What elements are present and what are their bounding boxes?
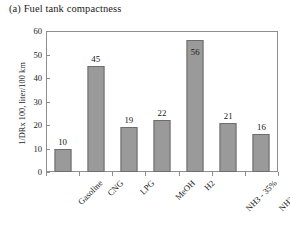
x-tick-mark (212, 172, 213, 176)
bar-group: 19 (112, 31, 145, 172)
x-axis-label-text: Gasoline (75, 178, 104, 207)
x-axis-label-text: NH3 - 35% (244, 178, 279, 213)
bar[interactable] (253, 134, 270, 172)
y-tick-label: 30 (26, 98, 42, 106)
x-axis-label-text: H2 (202, 178, 217, 193)
bar-group: 45 (79, 31, 112, 172)
x-axis-label-text: CNG (105, 178, 125, 198)
x-axis-label: CNG (105, 178, 125, 198)
x-axis-label-text: MeOH (173, 178, 197, 202)
chart-title: (a) Fuel tank compactness (9, 3, 121, 14)
bar-value-label: 22 (158, 109, 167, 118)
y-tick-mark (46, 149, 50, 150)
x-tick-mark (245, 172, 246, 176)
bar-group: 21 (212, 31, 245, 172)
bar-value-label: 10 (58, 138, 67, 147)
bar-group: 56 (179, 31, 212, 172)
bar[interactable] (153, 120, 170, 172)
y-tick-mark (46, 31, 50, 32)
y-tick-mark (46, 102, 50, 103)
bar-value-label: 16 (257, 123, 266, 132)
x-tick-mark (145, 172, 146, 176)
bar-value-label: 19 (124, 116, 133, 125)
bar-value-label: 45 (91, 55, 100, 64)
x-axis-label-text: NH3 - 45% (277, 178, 290, 213)
plot-area: 10451922562116 (46, 31, 278, 172)
bar-value-label: 56 (191, 48, 200, 57)
x-axis-label: Gasoline (75, 178, 104, 207)
bar[interactable] (87, 66, 104, 172)
bar[interactable] (54, 149, 71, 173)
y-tick-label: 40 (26, 74, 42, 82)
y-axis-tick-labels: 0102030405060 (24, 31, 42, 172)
x-tick-mark (179, 172, 180, 176)
x-tick-mark (46, 172, 47, 176)
y-tick-mark (46, 78, 50, 79)
bar-group: 22 (145, 31, 178, 172)
bar[interactable] (187, 40, 204, 172)
bar[interactable] (220, 123, 237, 172)
bar-value-label: 21 (224, 112, 233, 121)
y-tick-label: 20 (26, 121, 42, 129)
x-axis-label: H2 (202, 178, 217, 193)
bar-group: 16 (245, 31, 278, 172)
x-axis-label: MeOH (173, 178, 197, 202)
x-axis-label: LPG (138, 178, 157, 197)
bar[interactable] (120, 127, 137, 172)
x-axis-label: NH3 - 35% (244, 178, 279, 213)
y-tick-label: 50 (26, 51, 42, 59)
y-tick-label: 10 (26, 145, 42, 153)
x-tick-mark (112, 172, 113, 176)
x-axis-label: NH3 - 45% (277, 178, 290, 213)
x-tick-mark (278, 172, 279, 176)
x-tick-mark (79, 172, 80, 176)
y-tick-mark (46, 55, 50, 56)
x-axis-label-text: LPG (138, 178, 157, 197)
bar-group: 10 (46, 31, 79, 172)
figure: (a) Fuel tank compactness 1/DRx 100, lit… (0, 0, 290, 231)
y-tick-label: 0 (26, 168, 42, 176)
y-tick-mark (46, 125, 50, 126)
y-tick-label: 60 (26, 27, 42, 35)
